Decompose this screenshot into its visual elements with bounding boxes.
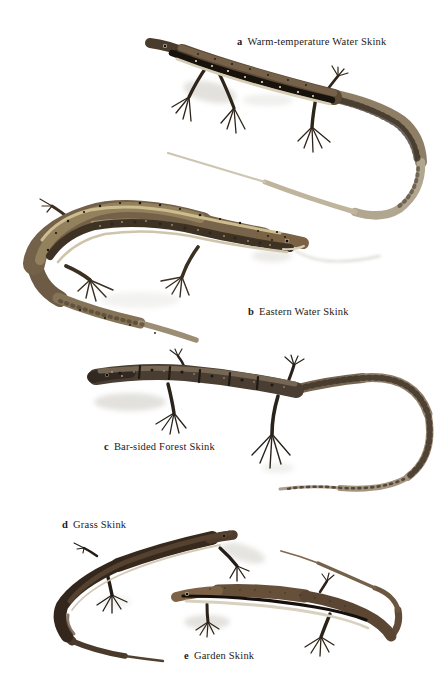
head-details	[105, 373, 109, 377]
caption-e-letter: e	[184, 650, 189, 661]
front-toes	[230, 566, 249, 581]
front-right-toes	[221, 108, 245, 133]
eye-dot	[106, 374, 109, 377]
far-hind-toes	[332, 66, 348, 76]
caption-c-name: Bar-sided Forest Skink	[114, 441, 215, 452]
tail	[61, 612, 163, 661]
eye-dot	[286, 240, 289, 243]
field-guide-plate: aWarm-temperature Water Skink bEastern W…	[0, 0, 437, 688]
caption-d: dGrass Skink	[62, 519, 126, 530]
far-hind-toes	[322, 573, 334, 581]
illustration-warm-temperature-water-skink	[150, 43, 421, 215]
eye-dot	[164, 45, 167, 48]
caption-a-name: Warm-temperature Water Skink	[247, 36, 386, 47]
hind-toes	[252, 434, 290, 468]
caption-b: bEastern Water Skink	[248, 306, 349, 317]
eye-dot	[223, 535, 225, 537]
caption-b-letter: b	[248, 306, 254, 317]
skink-illustrations	[0, 0, 437, 688]
far-front-toes	[170, 349, 182, 356]
eye-dot	[186, 593, 189, 596]
caption-b-name: Eastern Water Skink	[259, 306, 349, 317]
caption-c: cBar-sided Forest Skink	[104, 441, 215, 452]
illustration-garden-skink	[176, 551, 399, 656]
cast-shadow	[100, 248, 380, 308]
hind-toes	[298, 127, 330, 152]
front-toes	[156, 413, 186, 434]
hind-toes	[305, 637, 334, 656]
front-left-toes	[172, 97, 191, 121]
ear-dot	[196, 595, 198, 597]
caption-d-name: Grass Skink	[73, 519, 126, 530]
caption-d-letter: d	[62, 519, 68, 530]
body	[150, 43, 334, 104]
ear-dot	[271, 239, 273, 241]
illustration-bar-sided-forest-skink	[93, 349, 430, 489]
tail-bars	[305, 378, 430, 477]
caption-a-letter: a	[237, 36, 242, 47]
caption-e: eGarden Skink	[184, 650, 254, 661]
far-hind-toes	[285, 355, 304, 365]
caption-c-letter: c	[104, 441, 109, 452]
caption-e-name: Garden Skink	[194, 650, 254, 661]
cast-shadow	[94, 393, 294, 473]
far-hind-toes	[40, 199, 52, 212]
illustration-eastern-water-skink	[34, 199, 380, 340]
caption-a: aWarm-temperature Water Skink	[237, 36, 386, 47]
tail	[168, 95, 421, 215]
far-front-toes	[74, 543, 84, 553]
ear-dot	[175, 50, 177, 52]
brush-stroke-line	[292, 248, 380, 261]
body	[93, 368, 296, 390]
head-details	[222, 534, 226, 538]
